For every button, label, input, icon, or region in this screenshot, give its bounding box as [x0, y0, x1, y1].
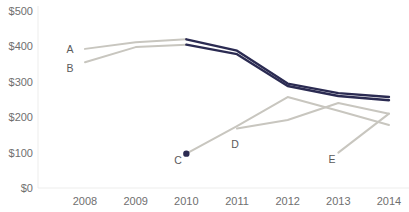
x-tick-label-2009: 2009	[123, 195, 147, 207]
series-label-C: C	[174, 154, 182, 166]
series-markers	[183, 150, 189, 156]
series-line-B	[186, 45, 389, 101]
series-line-E	[338, 114, 389, 153]
y-tick-label-0: $0	[21, 182, 33, 194]
series-lines	[85, 39, 389, 153]
series-label-B: B	[66, 62, 73, 74]
y-tick-label-100: $100	[9, 147, 33, 159]
x-axis-tick-labels: 2008200920102011201220132014	[73, 195, 401, 207]
y-axis-tick-labels: $0$100$200$300$400$500	[9, 5, 33, 194]
x-tick-label-2008: 2008	[73, 195, 97, 207]
series-label-A: A	[66, 43, 73, 55]
series-line-A	[186, 39, 389, 97]
series-line-D	[237, 103, 389, 128]
series-inline-labels: ABCDE	[66, 43, 335, 166]
x-tick-label-2010: 2010	[174, 195, 198, 207]
plot-area: $0$100$200$300$400$500 20082009201020112…	[0, 0, 409, 212]
x-tick-label-2013: 2013	[326, 195, 350, 207]
series-marker-C	[183, 150, 189, 156]
x-tick-label-2011: 2011	[225, 195, 249, 207]
line-chart: $0$100$200$300$400$500 20082009201020112…	[0, 0, 409, 212]
y-tick-label-400: $400	[9, 40, 33, 52]
y-tick-label-500: $500	[9, 5, 33, 17]
series-label-E: E	[328, 153, 335, 165]
y-tick-label-200: $200	[9, 111, 33, 123]
x-tick-label-2014: 2014	[377, 195, 401, 207]
series-label-D: D	[231, 138, 239, 150]
series-line-C	[186, 97, 389, 154]
y-tick-label-300: $300	[9, 76, 33, 88]
x-tick-label-2012: 2012	[275, 195, 299, 207]
